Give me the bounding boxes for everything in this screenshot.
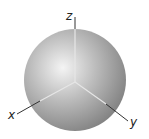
x-axis-label: x bbox=[7, 108, 16, 122]
y-axis-label: y bbox=[129, 115, 138, 129]
sphere-axes-diagram: z x y bbox=[0, 0, 149, 139]
z-axis-label: z bbox=[65, 9, 73, 23]
diagram-svg: z x y bbox=[0, 0, 149, 139]
